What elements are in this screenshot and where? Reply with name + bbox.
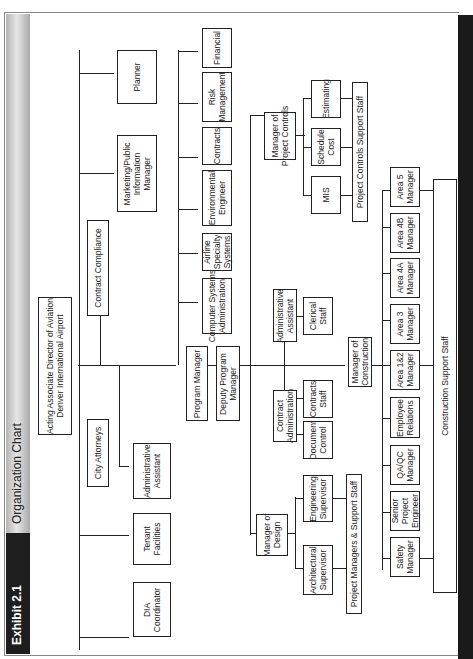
manager-project-controls-box[interactable]: Manager of Project Controls	[264, 112, 296, 160]
admin-assistant-2-box[interactable]: Administrative Assistant	[273, 289, 297, 342]
project-controls-unit-estimating[interactable]: Estimating	[311, 80, 341, 118]
architectural-supervisor-box[interactable]: Architectural Supervisor	[303, 545, 333, 595]
project-controls-unit-schedule-cost[interactable]: Schedule Cost	[311, 128, 341, 166]
contracts-staff-box[interactable]: Contracts Staff	[303, 380, 333, 418]
construction-unit-senior-engineer[interactable]: Senior Project Engineer	[390, 491, 420, 531]
project-controls-support-box[interactable]: Project Controls Support Staff	[352, 82, 368, 222]
construction-support-box[interactable]: Construction Support Staff	[433, 179, 457, 593]
city-attorneys-box[interactable]: City Attorneys	[87, 419, 109, 487]
document-control-box[interactable]: Document Control	[303, 421, 333, 459]
construction-unit-area5[interactable]: Area 5 Manager	[390, 167, 420, 207]
exhibit-label: Exhibit 2.1	[10, 585, 24, 645]
project-managers-support-box[interactable]: Project Managers & Support Staff	[346, 474, 362, 614]
contract-compliance-box[interactable]: Contract Compliance	[87, 220, 109, 316]
contract-administration-box[interactable]: Contract Administration	[273, 390, 297, 442]
tenant-facilities-box[interactable]: Tenant Facilities	[133, 513, 171, 565]
chart-title: Organization Chart	[10, 423, 24, 524]
construction-unit-employee-relations[interactable]: Employee Relations	[390, 397, 420, 438]
administrative-assistant-box[interactable]: Administrative Assistant	[133, 443, 171, 499]
clerical-staff-box[interactable]: Clerical Staff	[303, 297, 333, 335]
program-unit-airline-specialty[interactable]: Airline Specialty Systems	[202, 233, 232, 271]
deputy-program-manager-box[interactable]: Deputy Program Manager	[216, 346, 240, 421]
manager-of-construction-box[interactable]: Manager of Construction	[348, 337, 372, 387]
project-controls-unit-mis[interactable]: MIS	[311, 176, 341, 214]
planner-box[interactable]: Planner	[117, 50, 157, 104]
manager-of-design-box[interactable]: Manager of Design	[256, 514, 288, 556]
construction-unit-area12[interactable]: Area 1&2 Manager	[390, 350, 420, 390]
marketing-manager-box[interactable]: Marketing/Public Information Manager	[117, 135, 157, 212]
construction-unit-qaqc[interactable]: QA/QC Manager	[390, 445, 420, 485]
program-unit-financial[interactable]: Financial	[202, 28, 232, 68]
page-edge	[458, 15, 473, 659]
program-unit-environmental[interactable]: Environmental Engineer	[202, 170, 232, 226]
construction-unit-area4a[interactable]: Area 4A Manager	[390, 258, 420, 298]
construction-unit-area4b[interactable]: Area 4B Manager	[390, 213, 420, 253]
construction-unit-area3[interactable]: Area 3 Manager	[390, 304, 420, 344]
program-unit-risk-management[interactable]: Risk Management	[202, 72, 232, 122]
engineering-supervisor-box[interactable]: Engineering Supervisor	[303, 475, 333, 522]
program-unit-contracts[interactable]: Contracts	[202, 127, 232, 165]
acting-associate-director-box[interactable]: Acting Associate Director of Aviation De…	[38, 297, 72, 435]
program-unit-computer-systems[interactable]: Computer Systems Administration	[202, 278, 232, 334]
construction-unit-safety[interactable]: Safety Manager	[390, 537, 420, 577]
dia-coordinator-box[interactable]: DIA Coordinator	[133, 582, 171, 637]
program-manager-box[interactable]: Program Manager	[186, 346, 208, 421]
